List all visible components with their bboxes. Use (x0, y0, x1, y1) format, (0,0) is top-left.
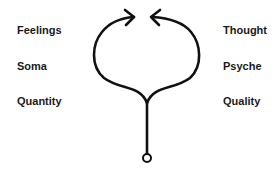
label-psyche: Psyche (223, 61, 262, 72)
label-thought: Thought (223, 25, 267, 36)
label-quality: Quality (223, 96, 260, 107)
label-soma: Soma (17, 61, 47, 72)
root-circle-icon (143, 154, 151, 162)
label-quantity: Quantity (17, 96, 62, 107)
left-curve-arrow (94, 17, 147, 103)
right-curve-arrow (147, 17, 199, 103)
label-feelings: Feelings (17, 25, 62, 36)
